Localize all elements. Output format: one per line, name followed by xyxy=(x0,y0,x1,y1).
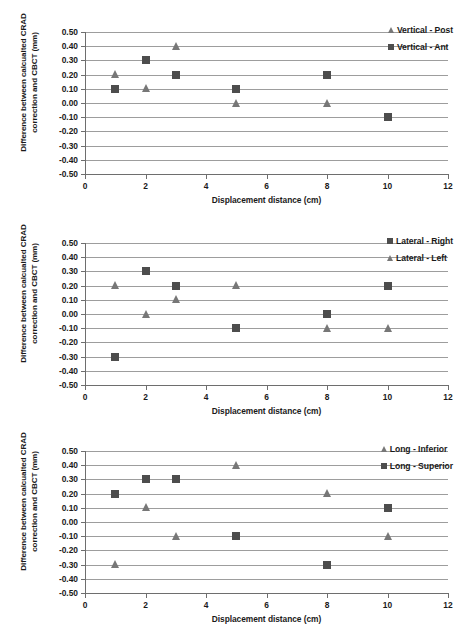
legend-item: Lateral - Right xyxy=(387,236,453,246)
y-tick-mark xyxy=(81,508,86,509)
y-tick-label: 0.00 xyxy=(62,518,78,527)
plot-area-longitudinal xyxy=(85,451,448,593)
square-marker-icon xyxy=(387,238,393,244)
legend-item: Lateral - Left xyxy=(387,253,447,263)
data-point xyxy=(323,71,331,79)
gridline xyxy=(85,314,448,315)
data-point xyxy=(172,532,180,540)
gridline xyxy=(85,146,448,147)
data-point xyxy=(232,324,240,332)
y-tick-label: -0.40 xyxy=(59,574,78,583)
x-tick-mark xyxy=(388,385,389,390)
triangle-marker-icon xyxy=(381,446,387,452)
y-tick-label: -0.20 xyxy=(59,338,78,347)
data-point xyxy=(232,281,240,289)
y-tick-label: 0.30 xyxy=(62,267,78,276)
gridline xyxy=(85,160,448,161)
y-tick-mark xyxy=(81,46,86,47)
y-tick-label: -0.10 xyxy=(59,113,78,122)
y-tick-label: -0.10 xyxy=(59,532,78,541)
data-point xyxy=(172,42,180,50)
data-point xyxy=(323,310,331,318)
gridline xyxy=(85,550,448,551)
legend-label: Lateral - Left xyxy=(396,253,447,263)
y-tick-label: 0.00 xyxy=(62,99,78,108)
x-tick-label: 8 xyxy=(325,181,330,191)
gridline xyxy=(85,565,448,566)
data-point xyxy=(142,310,150,318)
y-tick-label: 0.30 xyxy=(62,475,78,484)
x-axis-title: Displacement distance (cm) xyxy=(85,195,448,205)
data-point xyxy=(111,281,119,289)
gridline xyxy=(85,342,448,343)
data-point xyxy=(142,84,150,92)
y-tick-mark xyxy=(81,357,86,358)
chart-lateral: Difference between calcualted CRAD corre… xyxy=(0,229,457,433)
x-tick-mark xyxy=(267,593,268,598)
gridline xyxy=(85,494,448,495)
y-tick-label: 0.00 xyxy=(62,310,78,319)
legend-longitudinal: Long - InferiorLong - Superior xyxy=(381,444,453,471)
y-tick-label: -0.30 xyxy=(59,560,78,569)
legend-item: Long - Superior xyxy=(381,461,453,471)
triangle-marker-icon xyxy=(388,27,394,33)
gridline xyxy=(85,371,448,372)
data-point xyxy=(384,113,392,121)
x-tick-mark xyxy=(448,385,449,390)
gridline xyxy=(85,117,448,118)
y-tick-label: -0.40 xyxy=(59,155,78,164)
x-tick-label: 2 xyxy=(143,181,148,191)
y-tick-mark xyxy=(81,342,86,343)
data-point xyxy=(232,532,240,540)
y-tick-label: 0.20 xyxy=(62,489,78,498)
y-tick-label: 0.40 xyxy=(62,253,78,262)
gridline xyxy=(85,508,448,509)
x-axis-title: Displacement distance (cm) xyxy=(85,614,448,624)
x-tick-mark xyxy=(327,385,328,390)
x-tick-label: 8 xyxy=(325,392,330,402)
x-tick-label: 10 xyxy=(383,600,392,610)
y-tick-mark xyxy=(81,328,86,329)
gridline xyxy=(85,103,448,104)
legend-vertical: Vertical - PostVertical - Ant xyxy=(388,25,453,52)
y-tick-label: 0.10 xyxy=(62,503,78,512)
y-tick-mark xyxy=(81,550,86,551)
y-tick-mark xyxy=(81,75,86,76)
y-tick-label: -0.40 xyxy=(59,366,78,375)
x-axis-ticks: 024681012 xyxy=(0,181,457,195)
y-tick-mark xyxy=(81,117,86,118)
x-tick-mark xyxy=(85,593,86,598)
y-tick-mark xyxy=(81,103,86,104)
data-point xyxy=(142,503,150,511)
y-tick-label: 0.50 xyxy=(62,447,78,456)
x-axis-ticks: 024681012 xyxy=(0,392,457,406)
x-tick-label: 0 xyxy=(83,392,88,402)
data-point xyxy=(111,490,119,498)
x-tick-mark xyxy=(146,174,147,179)
x-tick-label: 8 xyxy=(325,600,330,610)
x-tick-mark xyxy=(206,385,207,390)
x-tick-mark xyxy=(206,174,207,179)
x-tick-label: 2 xyxy=(143,392,148,402)
legend-item: Vertical - Ant xyxy=(388,42,449,52)
x-tick-mark xyxy=(146,385,147,390)
data-point xyxy=(232,461,240,469)
y-tick-label: -0.30 xyxy=(59,352,78,361)
data-point xyxy=(142,267,150,275)
data-point xyxy=(111,560,119,568)
gridline xyxy=(85,479,448,480)
square-marker-icon xyxy=(381,463,387,469)
y-tick-label: 0.10 xyxy=(62,84,78,93)
x-tick-label: 4 xyxy=(204,600,209,610)
y-tick-mark xyxy=(81,536,86,537)
y-tick-label: -0.50 xyxy=(59,170,78,179)
data-point xyxy=(384,504,392,512)
y-axis-ticks: 0.500.400.300.200.100.00-0.10-0.20-0.30-… xyxy=(38,451,78,593)
x-tick-label: 10 xyxy=(383,392,392,402)
y-tick-mark xyxy=(81,300,86,301)
x-tick-mark xyxy=(327,593,328,598)
y-axis-title: Difference between calcualted CRAD corre… xyxy=(19,219,40,369)
y-tick-label: 0.10 xyxy=(62,295,78,304)
legend-item: Vertical - Post xyxy=(388,25,453,35)
x-tick-label: 12 xyxy=(443,600,452,610)
